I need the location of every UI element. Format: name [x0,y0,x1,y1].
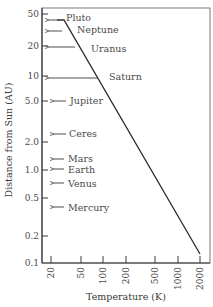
planet-label-uranus: Uranus [91,43,126,54]
y-tick-label: 5.0 [25,96,40,106]
x-tick-label: 2000 [195,267,205,290]
x-tick-labels: 20 50 100 200 500 1000 2000 [46,267,205,290]
x-axis-title: Temperature (K) [86,291,166,302]
planet-label-mercury: Mercury [68,202,110,213]
y-tick-label: 10 [28,71,40,81]
planet-label-neptune: Neptune [77,24,119,35]
y-tick-label: 0.1 [25,258,39,268]
y-tick-labels: 50 20 10 5.0 2.0 1.0 0.5 0.2 0.1 [25,9,40,268]
planet-label-ceres: Ceres [69,128,97,139]
x-ticks [51,256,200,263]
planet-label-saturn: Saturn [109,71,142,82]
planet-label-earth: Earth [68,164,95,175]
planet-label-mars: Mars [68,153,93,164]
y-axis-title: Distance from Sun (AU) [3,83,14,198]
planet-label-pluto: Pluto [66,12,91,23]
y-tick-label: 1.0 [25,165,40,175]
y-ticks [42,14,48,236]
x-tick-label: 20 [46,267,56,279]
chart: 50 20 10 5.0 2.0 1.0 0.5 0.2 0.1 20 50 1… [0,0,213,307]
planet-label-venus: Venus [67,178,97,189]
x-tick-label: 100 [98,267,108,284]
x-tick-label: 200 [121,267,131,284]
y-tick-label: 2.0 [25,137,40,147]
y-tick-label: 50 [28,9,40,19]
x-tick-label: 50 [76,267,86,279]
y-tick-label: 0.5 [25,193,40,203]
x-tick-label: 1000 [173,267,183,290]
x-tick-label: 500 [150,267,160,284]
y-tick-label: 20 [28,41,40,51]
planet-label-jupiter: Jupiter [69,95,103,106]
y-tick-label: 0.2 [25,231,39,241]
